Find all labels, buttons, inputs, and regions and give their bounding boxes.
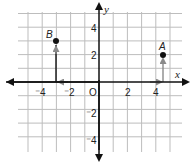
x-tick-label: ⁻4	[35, 87, 46, 98]
y-tick-label: ⁻4	[86, 135, 97, 146]
point-a	[160, 52, 166, 58]
y-tick-label: 4	[91, 23, 97, 34]
y-tick-label: ⁻2	[86, 108, 97, 119]
origin-label: O	[89, 87, 97, 98]
point-a-label: A	[158, 41, 166, 52]
x-tick-label: ⁻2	[64, 87, 75, 98]
x-axis-label: x	[174, 68, 180, 80]
x-tick-label: 4	[153, 87, 159, 98]
y-axis-label: y	[103, 3, 109, 15]
point-b	[53, 38, 59, 44]
point-b-label: B	[46, 29, 53, 40]
coordinate-plane-svg: x y O ⁻4 ⁻2 2 4 4 2 ⁻2 ⁻4 B A	[0, 0, 196, 168]
coordinate-plane: x y O ⁻4 ⁻2 2 4 4 2 ⁻2 ⁻4 B A	[0, 0, 196, 168]
translation-arrows	[56, 45, 163, 82]
y-tick-label: 2	[91, 50, 97, 61]
x-tick-label: 2	[125, 87, 131, 98]
